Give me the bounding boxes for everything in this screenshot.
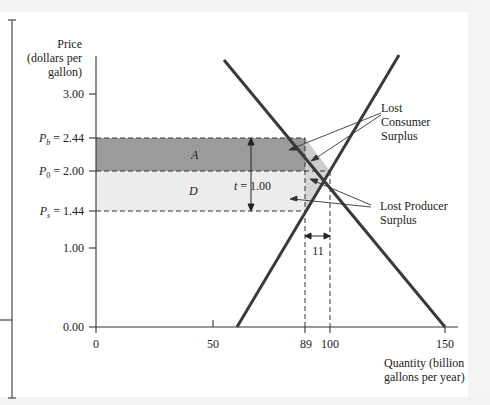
y-axis-title-line2: (dollars per xyxy=(27,51,82,65)
y-tick-p0: P0 = 2.00 xyxy=(38,164,84,180)
x-tick-89: 89 xyxy=(300,337,312,351)
page-bracket xyxy=(0,20,16,398)
x-tick-100: 100 xyxy=(321,337,339,351)
x-tick-50: 50 xyxy=(207,337,219,351)
x-axis-title-line2: gallons per year) xyxy=(384,370,465,384)
y-tick-1: 1.00 xyxy=(63,241,84,255)
lost-consumer-surplus-triangle xyxy=(305,138,330,171)
y-tick-0: 0.00 xyxy=(63,320,84,334)
x-axis-title-line1: Quantity (billion xyxy=(384,356,464,370)
region-a-label: A xyxy=(190,148,199,162)
lost-consumer-surplus-line3: Surplus xyxy=(381,129,418,143)
region-d-label: D xyxy=(188,184,198,198)
region-a xyxy=(96,138,305,171)
tax-label: t = 1.00 xyxy=(234,179,271,193)
quantity-gap-arrow xyxy=(305,233,330,239)
y-axis-title-line3: gallon) xyxy=(48,65,82,79)
region-d xyxy=(96,171,305,211)
y-axis-title-line1: Price xyxy=(57,37,82,51)
lost-consumer-surplus-line1: Lost xyxy=(381,101,403,115)
quantity-gap-label: 11 xyxy=(312,244,324,258)
lost-consumer-surplus-line2: Consumer xyxy=(381,115,430,129)
lost-producer-surplus-line1: Lost Producer xyxy=(380,199,448,213)
y-tick-ps: Ps = 1.44 xyxy=(39,204,84,220)
lost-producer-surplus-line2: Surplus xyxy=(380,213,417,227)
y-tick-pb: Pb = 2.44 xyxy=(38,131,84,147)
x-tick-150: 150 xyxy=(436,337,454,351)
x-tick-0: 0 xyxy=(93,337,99,351)
tax-incidence-chart: Price (dollars per gallon) 3.00 Pb = 2.4… xyxy=(0,0,490,405)
y-tick-3: 3.00 xyxy=(63,87,84,101)
